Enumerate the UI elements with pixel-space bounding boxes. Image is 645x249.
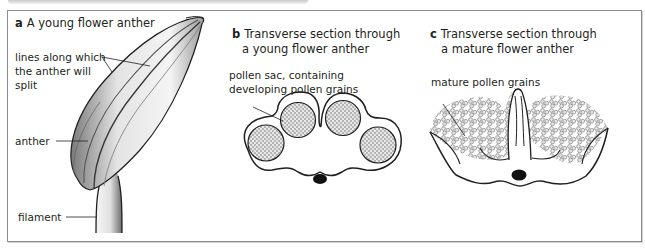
- label-pollen-sac-1: pollen sac, containing: [229, 68, 344, 82]
- panel-c-letter: c: [430, 27, 437, 41]
- label-split-lines-3: split: [15, 78, 37, 92]
- panel-b-letter: b: [232, 27, 240, 41]
- panel-c-title-line2: a mature flower anther: [441, 42, 574, 57]
- panel-a-letter: a: [15, 16, 23, 30]
- panel-a-title: aA young flower anther: [15, 16, 155, 31]
- panel-a-title-text: A young flower anther: [27, 16, 155, 30]
- panel-c-title-text-1: Transverse section through: [441, 27, 597, 41]
- young-section-drawing: [244, 92, 401, 184]
- label-anther: anther: [15, 134, 50, 148]
- label-filament: filament: [18, 210, 61, 224]
- label-split-lines-2: the anther will: [15, 64, 91, 78]
- panel-b-title-text-1: Transverse section through: [244, 27, 400, 41]
- panel-b-title-line1: bTransverse section through: [232, 27, 400, 42]
- label-mature-pollen: mature pollen grains: [431, 75, 540, 89]
- panel-b-title-line2: a young flower anther: [242, 42, 369, 57]
- label-split-lines-1: lines along which: [15, 50, 106, 64]
- mature-section-drawing: [430, 88, 608, 186]
- label-pollen-sac-2: developing pollen grains: [229, 82, 358, 96]
- panel-c-title-line1: cTransverse section through: [430, 27, 597, 42]
